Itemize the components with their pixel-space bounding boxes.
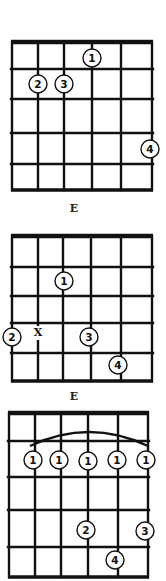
finger-number: 2 (34, 78, 41, 90)
finger-dot: 2 (3, 328, 21, 346)
finger-dot: 1 (108, 451, 126, 469)
finger-number: 4 (114, 359, 121, 371)
finger-number: 3 (60, 78, 67, 90)
finger-number: 1 (29, 454, 36, 466)
finger-number: 4 (111, 554, 118, 566)
finger-number: 1 (113, 454, 120, 466)
chord-diagram: 11111234 (8, 413, 155, 577)
finger-dot: 3 (55, 75, 73, 93)
finger-dot: 1 (83, 49, 101, 67)
chord-name-label: E (70, 390, 78, 403)
finger-dot: 3 (80, 328, 98, 346)
finger-dot: 1 (55, 272, 73, 290)
finger-dot: 1 (79, 452, 97, 470)
finger-number: 2 (82, 524, 89, 536)
finger-dot: 4 (141, 140, 159, 158)
finger-number: 1 (142, 454, 149, 466)
finger-dot: 4 (109, 356, 127, 374)
finger-dot: 1 (137, 451, 155, 469)
finger-number: 1 (84, 455, 91, 467)
chord-diagram: X1234 (3, 236, 153, 381)
chord-diagrams: 1234EX1234E11111234 (0, 0, 166, 581)
finger-number: 1 (60, 275, 67, 287)
chord-name-label: E (70, 202, 78, 215)
finger-dot: 1 (50, 451, 68, 469)
finger-dot: 2 (77, 521, 95, 539)
muted-string-mark: X (34, 326, 43, 339)
finger-number: 1 (55, 454, 62, 466)
finger-dot: 4 (106, 551, 124, 569)
finger-number: 1 (88, 52, 95, 64)
finger-dot: 2 (29, 75, 47, 93)
finger-number: 3 (85, 331, 92, 343)
chord-diagram: 1234 (11, 42, 159, 190)
finger-dot: 1 (24, 451, 42, 469)
finger-number: 2 (8, 331, 15, 343)
finger-number: 3 (141, 525, 148, 537)
finger-dot: 3 (136, 522, 154, 540)
finger-number: 4 (146, 143, 153, 155)
